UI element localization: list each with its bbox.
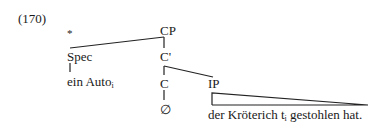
ip-content: der Kröterich ti gestohlen hat. bbox=[208, 108, 362, 121]
empty-complementizer: ∅ bbox=[160, 103, 171, 116]
node-spec: Spec bbox=[67, 50, 92, 63]
node-ip: IP bbox=[208, 77, 220, 90]
ungrammatical-mark: * bbox=[67, 27, 73, 40]
example-number: (170) bbox=[18, 12, 46, 25]
node-cp: CP bbox=[160, 24, 176, 37]
node-c: C bbox=[160, 77, 169, 90]
spec-content: ein Autoi bbox=[67, 75, 114, 88]
node-c-bar: C' bbox=[160, 50, 171, 63]
